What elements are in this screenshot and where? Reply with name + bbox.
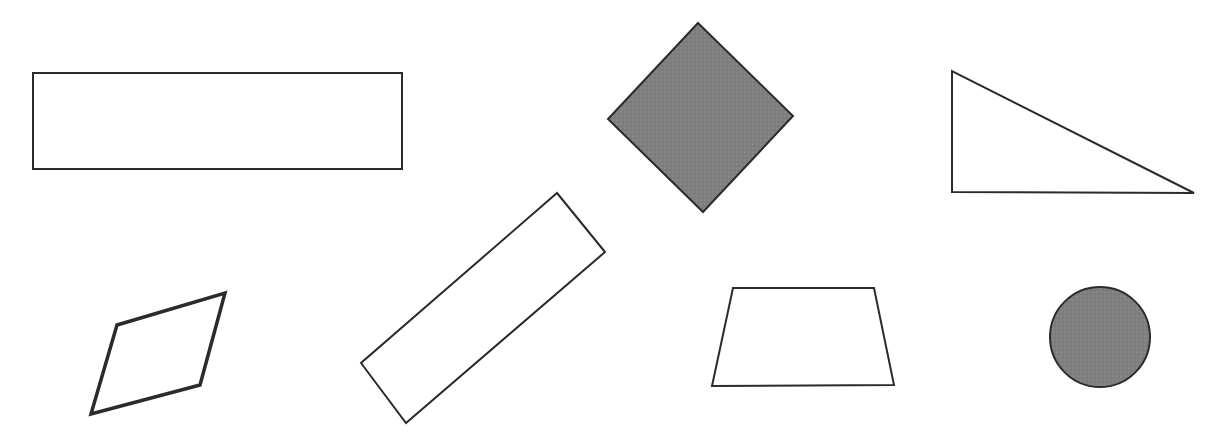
filled-circle <box>1050 287 1150 387</box>
canvas-background <box>0 0 1222 433</box>
shapes-svg <box>0 0 1222 433</box>
shape-figure-canvas <box>0 0 1222 433</box>
